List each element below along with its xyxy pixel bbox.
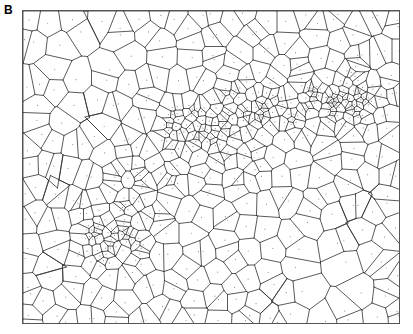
voronoi-cell-group	[23, 11, 400, 324]
voronoi-seed-points	[24, 13, 400, 324]
figure-panel: B	[0, 0, 413, 334]
voronoi-seed-group	[24, 13, 400, 324]
voronoi-diagram	[23, 11, 400, 324]
panel-label: B	[4, 3, 13, 17]
voronoi-edges	[23, 11, 400, 324]
plot-frame	[22, 10, 400, 324]
